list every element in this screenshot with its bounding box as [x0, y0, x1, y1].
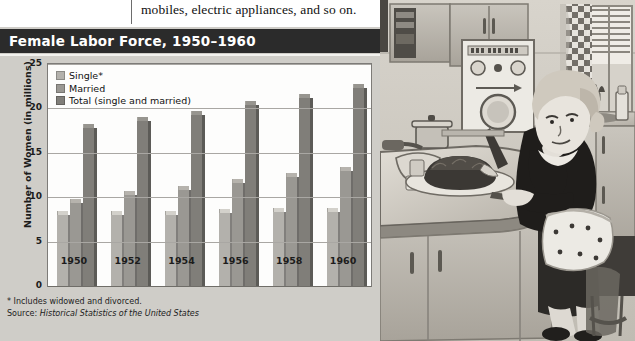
bar-top-face — [219, 209, 230, 213]
bar-top-face — [299, 94, 310, 98]
bar-1954-married — [178, 190, 189, 286]
bar-1950-single- — [57, 215, 68, 286]
chart-source: Source: Historical Statistics of the Uni… — [7, 309, 199, 318]
bar-top-face — [327, 208, 338, 212]
y-axis-title: Number of Women (in millions) — [22, 60, 33, 230]
gridline — [48, 108, 371, 109]
chart-legend: Single*MarriedTotal (single and married) — [56, 70, 191, 108]
bar-top-face — [178, 186, 189, 190]
bar-1952-single- — [111, 215, 122, 286]
legend-item-0: Single* — [56, 70, 191, 82]
bar-1960-single- — [327, 212, 338, 286]
bar-1956-married — [232, 183, 243, 286]
bar-face — [57, 215, 68, 286]
bar-top-face — [286, 173, 297, 177]
bar-face — [124, 195, 135, 286]
legend-item-1: Married — [56, 83, 191, 95]
gridline — [48, 242, 371, 243]
legend-label: Married — [69, 83, 105, 95]
bar-top-face — [165, 211, 176, 215]
plot-area: Single*MarriedTotal (single and married) — [47, 63, 372, 287]
bar-top-face — [191, 111, 202, 115]
bar-group-1956 — [219, 64, 256, 286]
gridline — [48, 286, 371, 287]
bar-face — [165, 215, 176, 286]
bar-top-face — [111, 211, 122, 215]
chart-title: Female Labor Force, 1950–1960 — [0, 33, 256, 49]
x-axis-tick-1960: 1960 — [316, 255, 370, 266]
bar-top-face — [340, 167, 351, 171]
bar-face — [70, 203, 81, 286]
kitchen-photo — [380, 0, 635, 341]
bar-face — [273, 212, 284, 286]
bar-top-face — [57, 211, 68, 215]
gridline — [48, 197, 371, 198]
x-axis-tick-1950: 1950 — [47, 255, 101, 266]
gridline — [48, 153, 371, 154]
column-rule — [131, 0, 132, 24]
bar-face — [219, 213, 230, 286]
figure-root: mobiles, electric appliances, and so on.… — [0, 0, 635, 341]
article-body-text: mobiles, electric appliances, and so on. — [141, 2, 377, 18]
bar-face — [286, 177, 297, 286]
bar-top-face — [70, 199, 81, 203]
chart-panel: Female Labor Force, 1950–1960 Single*Mar… — [0, 27, 380, 341]
bar-top-face — [83, 124, 94, 128]
legend-label: Total (single and married) — [69, 95, 191, 107]
bar-1958-single- — [273, 212, 284, 286]
bar-1952-married — [124, 195, 135, 286]
bar-group-1958 — [273, 64, 310, 286]
y-axis-tick-5: 5 — [12, 236, 42, 246]
bar-1956-single- — [219, 213, 230, 286]
x-axis-tick-1958: 1958 — [262, 255, 316, 266]
bar-group-1960 — [327, 64, 364, 286]
bar-top-face — [273, 208, 284, 212]
bar-top-face — [124, 191, 135, 195]
bar-1954-single- — [165, 215, 176, 286]
x-axis-tick-1954: 1954 — [155, 255, 209, 266]
bar-face — [340, 171, 351, 286]
chart-footnote: * Includes widowed and divorced. — [7, 297, 142, 306]
article-text-strip: mobiles, electric appliances, and so on. — [0, 0, 380, 27]
legend-item-2: Total (single and married) — [56, 95, 191, 107]
legend-swatch-icon — [56, 96, 65, 105]
bar-top-face — [232, 179, 243, 183]
bar-1958-married — [286, 177, 297, 286]
chart-title-bar: Female Labor Force, 1950–1960 — [0, 29, 380, 53]
legend-swatch-icon — [56, 84, 65, 93]
legend-label: Single* — [69, 70, 103, 82]
bar-1950-married — [70, 203, 81, 286]
gridline — [48, 64, 371, 65]
bar-top-face — [353, 84, 364, 88]
bar-top-face — [137, 117, 148, 121]
x-axis-tick-1956: 1956 — [208, 255, 262, 266]
legend-swatch-icon — [56, 71, 65, 80]
chart-source-prefix: Source: — [7, 309, 40, 318]
y-axis-tick-0: 0 — [12, 280, 42, 290]
x-axis-tick-1952: 1952 — [101, 255, 155, 266]
bar-face — [111, 215, 122, 286]
bar-1960-married — [340, 171, 351, 286]
chart-source-title: Historical Statistics of the United Stat… — [40, 309, 199, 318]
bar-face — [232, 183, 243, 286]
kitchen-illustration — [380, 0, 635, 341]
bar-face — [178, 190, 189, 286]
title-underline — [0, 54, 380, 56]
bar-face — [327, 212, 338, 286]
bar-top-face — [245, 101, 256, 105]
